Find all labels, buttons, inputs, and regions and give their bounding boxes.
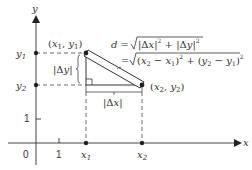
y-axis-label: y bbox=[31, 3, 38, 14]
dy-brace bbox=[76, 55, 80, 83]
svg-text:|Δx|2 + |Δy|2: |Δx|2 + |Δy|2 bbox=[138, 37, 200, 51]
formula-line-2: = bbox=[121, 55, 129, 66]
formula-line-1: d = bbox=[111, 39, 129, 50]
x1-label: x1 bbox=[81, 149, 91, 162]
x-axis-label: x bbox=[243, 137, 249, 148]
point-p2 bbox=[140, 83, 145, 88]
point-x1 bbox=[84, 141, 88, 145]
point-y1 bbox=[34, 51, 38, 55]
x-tick-1-label: 1 bbox=[56, 149, 62, 160]
x2-label: x2 bbox=[137, 149, 148, 162]
svg-text:(x2 − x1)2 + (y2 − y1)2: (x2 − x1)2 + (y2 − y1)2 bbox=[137, 53, 244, 68]
p1-label: (x1, y1) bbox=[48, 38, 83, 51]
dx-label: |Δx| bbox=[103, 97, 123, 109]
point-y2 bbox=[34, 83, 38, 87]
right-angle-marker bbox=[86, 79, 92, 85]
y-tick-1-label: 1 bbox=[24, 113, 30, 124]
dy-label: |Δy| bbox=[53, 64, 73, 76]
distance-diagram: y x 0 1 1 y1 y2 x1 x2 (x1, y1) (x2, y2) … bbox=[0, 0, 252, 170]
p2-label: (x2, y2) bbox=[150, 81, 185, 94]
y2-label: y2 bbox=[15, 80, 27, 93]
origin-label: 0 bbox=[23, 149, 29, 160]
point-x2 bbox=[140, 141, 144, 145]
point-p1 bbox=[84, 51, 89, 56]
y1-label: y1 bbox=[15, 48, 26, 61]
dx-bracket bbox=[86, 89, 142, 92]
